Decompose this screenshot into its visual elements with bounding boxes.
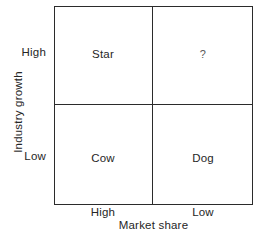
x-axis-tick-low: Low bbox=[153, 206, 253, 218]
matrix-horizontal-divider bbox=[54, 104, 253, 105]
quadrant-top-left-star: Star bbox=[54, 32, 152, 76]
quadrant-label: Dog bbox=[192, 152, 214, 164]
x-axis-tick-high: High bbox=[54, 206, 152, 218]
growth-share-matrix-figure: Industry growth High Low Star ? Cow Dog … bbox=[0, 0, 261, 234]
quadrant-label: Cow bbox=[91, 152, 115, 164]
y-axis-tick-high: High bbox=[0, 46, 46, 58]
quadrant-top-right-question: ? bbox=[153, 32, 253, 76]
y-axis-tick-low: Low bbox=[0, 150, 46, 162]
quadrant-bottom-left-cow: Cow bbox=[54, 136, 152, 180]
quadrant-label: ? bbox=[200, 48, 206, 60]
quadrant-label: Star bbox=[92, 48, 114, 60]
x-axis-title: Market share bbox=[54, 219, 253, 231]
quadrant-bottom-right-dog: Dog bbox=[153, 136, 253, 180]
